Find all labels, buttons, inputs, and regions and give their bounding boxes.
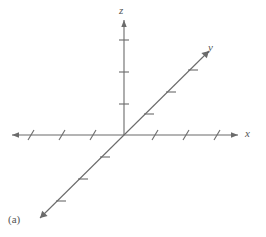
z-axis-label: z [119, 5, 123, 16]
x-axis-label: x [245, 128, 250, 139]
x-axis-arrowhead-positive [231, 132, 238, 137]
x-axis-group [12, 130, 238, 140]
z-axis-arrowhead-positive [121, 20, 126, 27]
figure-caption: (a) [8, 214, 20, 225]
y-axis-label: y [208, 42, 213, 53]
axes-drawing [0, 0, 266, 237]
figure-3d-axes: z y x (a) [0, 0, 266, 237]
x-axis-arrowhead-negative [12, 132, 19, 137]
z-axis-group [119, 20, 129, 135]
